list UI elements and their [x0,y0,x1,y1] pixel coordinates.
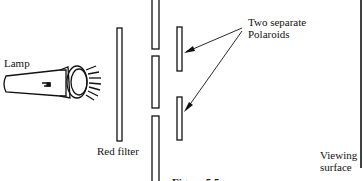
diagram-graphics [0,0,363,181]
slit-barrier [152,0,159,181]
red-filter-label: Red filter [97,145,139,157]
polaroids-label-line2: Polaroids [248,28,290,40]
polaroids-label-line1: Two separate [248,16,306,28]
polaroid-bottom [177,97,182,140]
lamp-icon [4,66,101,100]
diagram: Lamp Red filter Two separate Polaroids V… [0,0,363,181]
figure-caption: Figure 5.5 [172,176,219,181]
viewing-surface-label-line1: Viewing [320,149,357,161]
red-filter [117,28,122,141]
polaroid-top [177,27,182,71]
viewing-surface-label-line2: surface [320,161,352,173]
lamp-label: Lamp [4,57,30,69]
